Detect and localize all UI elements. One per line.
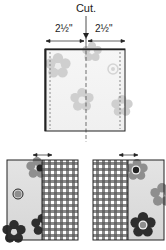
dimension-arrows bbox=[46, 38, 125, 44]
cut-arrow bbox=[83, 16, 89, 39]
original-square bbox=[45, 42, 133, 131]
quilt-diagram bbox=[0, 0, 166, 250]
left-pieced-block bbox=[2, 154, 78, 243]
seam-press-arrows bbox=[119, 154, 138, 157]
right-pieced-block bbox=[93, 154, 166, 241]
seam-press-arrows bbox=[33, 154, 52, 157]
